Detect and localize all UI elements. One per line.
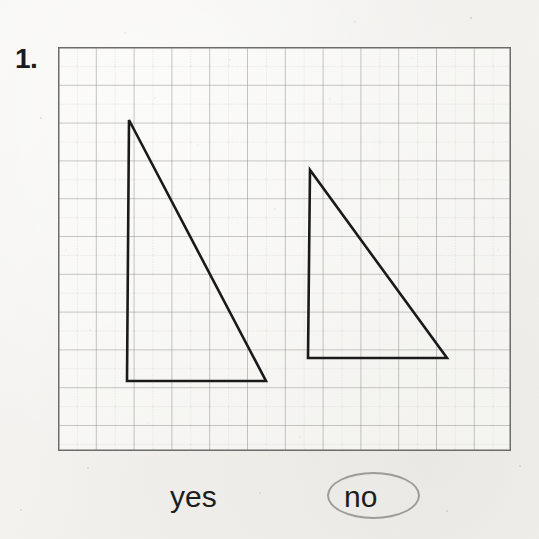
answer-option-no[interactable]: no bbox=[344, 482, 377, 512]
worksheet: 1. yes no bbox=[0, 0, 539, 539]
question-number: 1. bbox=[15, 43, 37, 75]
answer-option-yes[interactable]: yes bbox=[170, 482, 217, 512]
grid-figure-area bbox=[58, 47, 511, 451]
grid-svg bbox=[58, 47, 511, 451]
grid-lines bbox=[58, 47, 511, 451]
answer-row: yes no bbox=[0, 470, 539, 530]
